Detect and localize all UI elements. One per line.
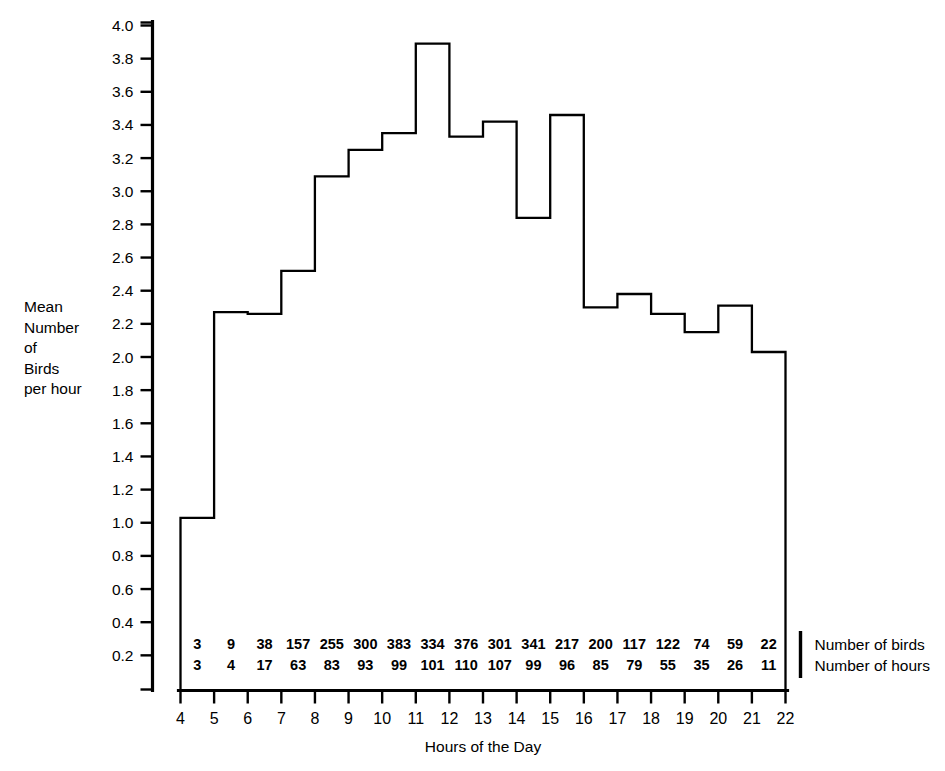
x-axis: 45678910111213141516171819202122 (176, 691, 794, 727)
annotation-hours-value: 83 (324, 657, 340, 673)
y-axis-title-line: of (24, 339, 38, 356)
annotation-birds-value: 217 (555, 636, 579, 652)
annotation-birds-value: 38 (256, 636, 272, 652)
annotation-birds-value: 255 (320, 636, 344, 652)
annotation-birds-value: 122 (656, 636, 680, 652)
x-axis-tick-label: 16 (575, 710, 593, 727)
step-series-path (181, 44, 786, 690)
annotation-birds-value: 22 (761, 636, 777, 652)
step-series (181, 44, 786, 690)
annotation-hours-value: 3 (193, 657, 201, 673)
y-axis-tick-label: 0.6 (112, 581, 134, 598)
annotation-hours-value: 17 (256, 657, 272, 673)
annotation-hours-value: 96 (559, 657, 575, 673)
x-axis-tick-label: 20 (709, 710, 727, 727)
x-axis-tick-label: 18 (642, 710, 660, 727)
annotation-birds-value: 157 (286, 636, 310, 652)
annotation-hours-value: 101 (420, 657, 444, 673)
y-axis-tick-label: 2.4 (112, 282, 134, 299)
annotation-hours-value: 63 (290, 657, 306, 673)
x-axis-tick-label: 5 (210, 710, 219, 727)
x-axis-tick-label: 6 (243, 710, 252, 727)
y-axis-tick-label: 3.6 (112, 83, 134, 100)
x-axis-tick-label: 9 (344, 710, 353, 727)
y-axis-tick-label: 0.4 (112, 614, 134, 631)
y-axis-tick-label: 1.0 (112, 514, 134, 531)
annotation-hours-value: 55 (660, 657, 676, 673)
annotation-birds-value: 300 (353, 636, 377, 652)
y-axis-tick-label: 3.8 (112, 50, 134, 67)
x-axis-tick-label: 12 (440, 710, 458, 727)
y-axis-tick-label: 3.0 (112, 183, 134, 200)
annotation-hours-value: 35 (693, 657, 709, 673)
y-axis-tick-label: 1.6 (112, 415, 134, 432)
x-axis-tick-label: 21 (743, 710, 761, 727)
annotation-hours-value: 93 (357, 657, 373, 673)
y-axis-tick-label: 2.0 (112, 349, 134, 366)
y-axis-tick-label: 4.0 (112, 17, 134, 34)
y-axis-tick-label: 1.2 (112, 481, 134, 498)
y-axis-tick-label: 0.2 (112, 647, 134, 664)
x-axis-tick-label: 22 (777, 710, 795, 727)
y-axis-tick-label: 1.4 (112, 448, 134, 465)
y-axis: 0.20.40.60.81.01.21.41.61.82.02.22.42.62… (112, 17, 153, 691)
annotation-hours-value: 99 (525, 657, 541, 673)
y-axis-tick-label: 2.8 (112, 216, 134, 233)
x-axis-tick-label: 19 (676, 710, 694, 727)
y-axis-tick-label: 2.6 (112, 249, 134, 266)
annotation-birds-value: 383 (387, 636, 411, 652)
annotation-birds-value: 9 (227, 636, 235, 652)
x-axis-tick-label: 17 (609, 710, 627, 727)
y-axis-title-line: Mean (24, 298, 63, 315)
x-axis-tick-label: 10 (373, 710, 391, 727)
axis-labels: Hours of the DayMeanNumberofBirdsper hou… (24, 298, 541, 755)
annotation-birds-value: 3 (193, 636, 201, 652)
x-axis-tick-label: 15 (541, 710, 559, 727)
x-axis-tick-label: 4 (176, 710, 185, 727)
annotation-hours-label: Number of hours (815, 657, 931, 674)
annotation-hours-value: 79 (626, 657, 642, 673)
annotation-birds-value: 334 (420, 636, 444, 652)
annotation-hours-value: 110 (454, 657, 477, 673)
annotation-hours-value: 4 (227, 657, 235, 673)
x-axis-tick-label: 7 (277, 710, 286, 727)
y-axis-title-line: per hour (24, 380, 82, 397)
annotation-hours-value: 99 (391, 657, 407, 673)
y-axis-tick-label: 1.8 (112, 382, 134, 399)
y-axis-tick-label: 0.8 (112, 547, 134, 564)
annotation-hours-value: 107 (488, 657, 512, 673)
annotation-table: 3938157255300383334376301341217200117122… (193, 631, 930, 678)
annotation-birds-value: 200 (589, 636, 613, 652)
x-axis-tick-label: 13 (474, 710, 492, 727)
annotation-birds-value: 376 (454, 636, 478, 652)
annotation-hours-value: 26 (727, 657, 743, 673)
x-axis-tick-label: 11 (407, 710, 424, 727)
annotation-birds-value: 117 (623, 636, 646, 652)
x-axis-tick-label: 14 (508, 710, 526, 727)
annotation-hours-value: 11 (761, 657, 776, 673)
chart-canvas: 0.20.40.60.81.01.21.41.61.82.02.22.42.62… (0, 0, 945, 771)
annotation-hours-value: 85 (593, 657, 609, 673)
y-axis-tick-label: 2.2 (112, 315, 134, 332)
y-axis-title-line: Number (24, 319, 79, 336)
y-axis-tick-label: 3.2 (112, 150, 134, 167)
annotation-birds-label: Number of birds (815, 636, 926, 653)
y-axis-tick-label: 3.4 (112, 116, 134, 133)
annotation-birds-value: 341 (521, 636, 545, 652)
x-axis-tick-label: 8 (310, 710, 319, 727)
x-axis-title: Hours of the Day (425, 738, 542, 755)
annotation-birds-value: 74 (693, 636, 709, 652)
y-axis-title-line: Birds (24, 360, 60, 377)
bird-activity-step-chart: 0.20.40.60.81.01.21.41.61.82.02.22.42.62… (0, 0, 945, 771)
annotation-birds-value: 59 (727, 636, 743, 652)
annotation-birds-value: 301 (488, 636, 512, 652)
